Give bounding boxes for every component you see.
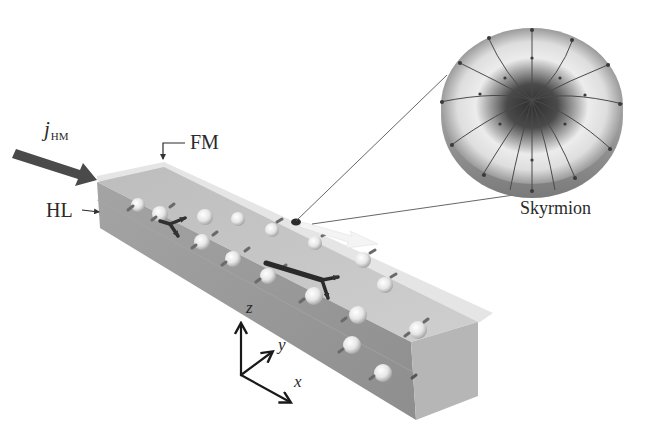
- hl-layer-label: HL: [46, 199, 73, 222]
- current-arrow: [12, 149, 97, 186]
- skyrmion-inset: [440, 28, 623, 198]
- y-axis: [241, 352, 272, 375]
- z-axis-label: z: [246, 298, 253, 318]
- current-symbol: j: [44, 117, 50, 141]
- hl-pointer: [82, 210, 99, 212]
- current-subscript: HM: [51, 130, 69, 142]
- fm-layer-label: FM: [190, 131, 219, 154]
- current-label: jHM: [44, 117, 69, 142]
- x-axis-label: x: [294, 372, 302, 392]
- fm-pointer: [163, 143, 185, 159]
- skyrmion-label: Skyrmion: [520, 198, 591, 219]
- x-axis: [241, 375, 290, 402]
- skyrmion-on-track: [291, 219, 301, 226]
- y-axis-label: y: [278, 335, 286, 355]
